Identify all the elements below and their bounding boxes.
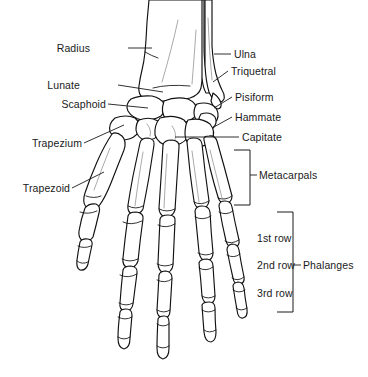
little-proximal-phalanx bbox=[219, 201, 239, 248]
metacarpal-1-thumb bbox=[84, 133, 125, 209]
label-radius: Radius bbox=[10, 42, 90, 54]
label-lunate: Lunate bbox=[10, 79, 80, 91]
bracket-metacarpals bbox=[234, 150, 250, 205]
ring-proximal-phalanx bbox=[195, 206, 213, 261]
middle-distal-phalanx bbox=[157, 316, 169, 359]
middle-proximal-phalanx bbox=[157, 215, 175, 273]
ring-middle-phalanx bbox=[199, 259, 215, 304]
index-proximal-phalanx bbox=[122, 212, 143, 268]
label-capitate: Capitate bbox=[242, 131, 282, 143]
little-distal-phalanx bbox=[233, 282, 247, 318]
thumb-proximal-phalanx bbox=[79, 204, 100, 242]
little-middle-phalanx bbox=[227, 244, 244, 284]
label-phalanx-row-3: 3rd row bbox=[257, 287, 293, 299]
label-phalanges: Phalanges bbox=[303, 259, 354, 271]
label-metacarpals: Metacarpals bbox=[259, 169, 317, 181]
middle-middle-phalanx bbox=[157, 271, 172, 318]
label-pisiform: Pisiform bbox=[235, 91, 274, 103]
label-triquetral: Triquetral bbox=[231, 65, 276, 77]
label-scaphoid: Scaphoid bbox=[0, 98, 106, 110]
label-phalanx-row-2: 2nd row bbox=[257, 259, 295, 271]
label-trapezium: Trapezium bbox=[0, 137, 82, 149]
radius-bone bbox=[139, 0, 203, 101]
metacarpal-3 bbox=[159, 140, 179, 217]
label-hammate: Hammate bbox=[235, 111, 281, 123]
index-middle-phalanx bbox=[119, 266, 137, 311]
label-trapezoid: Trapezoid bbox=[0, 182, 70, 194]
metacarpal-2 bbox=[128, 138, 154, 214]
hand-skeleton-diagram: Radius Lunate Scaphoid Trapezium Trapezo… bbox=[0, 0, 368, 377]
label-ulna: Ulna bbox=[234, 48, 256, 60]
ulna-bone bbox=[202, 0, 224, 102]
label-phalanx-row-1: 1st row bbox=[257, 232, 292, 244]
thumb-distal-phalanx bbox=[77, 239, 92, 270]
ring-distal-phalanx bbox=[202, 302, 216, 342]
index-distal-phalanx bbox=[118, 309, 132, 349]
